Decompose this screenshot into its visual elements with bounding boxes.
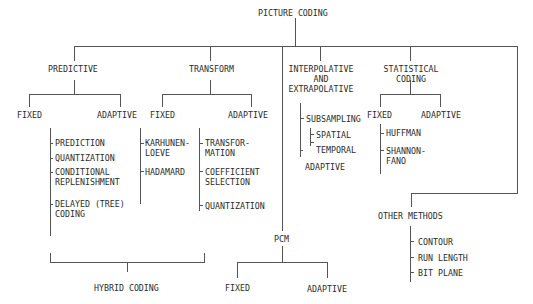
predictive-item-quantization: QUANTIZATION <box>55 153 115 163</box>
predictive-item-delayed-tree-coding: DELAYED (TREE) CODING <box>55 199 125 219</box>
other-item-bit-plane: BIT PLANE <box>418 268 463 278</box>
pcm-fixed-node: FIXED <box>225 283 250 293</box>
statistical-item-shannon-fano: SHANNON- FANO <box>386 146 426 166</box>
root-node: PICTURE CODING <box>258 8 328 18</box>
transform-item-hadamard: HADAMARD <box>145 167 185 177</box>
pcm-adaptive-node: ADAPTIVE <box>307 284 347 294</box>
statistical-adaptive-node: ADAPTIVE <box>421 110 461 120</box>
interpolative-extrapolative-node: INTERPOLATIVE AND EXTRAPOLATIVE <box>286 64 356 94</box>
transform-item-coefficient-selection: COEFFICIENT SELECTION <box>205 167 260 187</box>
hybrid-coding-node: HYBRID CODING <box>94 283 159 293</box>
statistical-fixed-node: FIXED <box>367 110 392 120</box>
predictive-fixed-node: FIXED <box>17 110 42 120</box>
transform-node: TRANSFORM <box>189 64 234 74</box>
subsampling-item-spatial: SPATIAL <box>316 130 351 140</box>
pcm-node: PCM <box>274 234 289 244</box>
transform-item-karhunen-loeve: KARHUNEN- LOEVE <box>145 138 190 158</box>
interpolative-item-subsampling: SUBSAMPLING <box>306 114 361 124</box>
transform-item-quantization: QUANTIZATION <box>205 201 265 211</box>
statistical-item-huffman: HUFFMAN <box>386 128 421 138</box>
interpolative-item-adaptive: ADAPTIVE <box>305 162 345 172</box>
other-methods-node: OTHER METHODS <box>378 211 443 221</box>
transform-fixed-node: FIXED <box>150 110 175 120</box>
statistical-coding-node: STATISTICAL CODING <box>381 64 442 84</box>
predictive-item-conditional-replenishment: CONDITIONAL REPLENISHMENT <box>55 167 120 187</box>
other-item-contour: CONTOUR <box>418 237 453 247</box>
subsampling-item-temporal: TEMPORAL <box>316 145 356 155</box>
other-item-run-length: RUN LENGTH <box>418 253 468 263</box>
transform-adaptive-node: ADAPTIVE <box>228 110 268 120</box>
picture-coding-tree: PICTURE CODING PREDICTIVE FIXED ADAPTIVE… <box>0 0 533 304</box>
predictive-adaptive-node: ADAPTIVE <box>97 110 137 120</box>
transform-item-transformation: TRANSFOR- MATION <box>205 138 250 158</box>
predictive-node: PREDICTIVE <box>48 64 98 74</box>
predictive-item-prediction: PREDICTION <box>55 138 105 148</box>
